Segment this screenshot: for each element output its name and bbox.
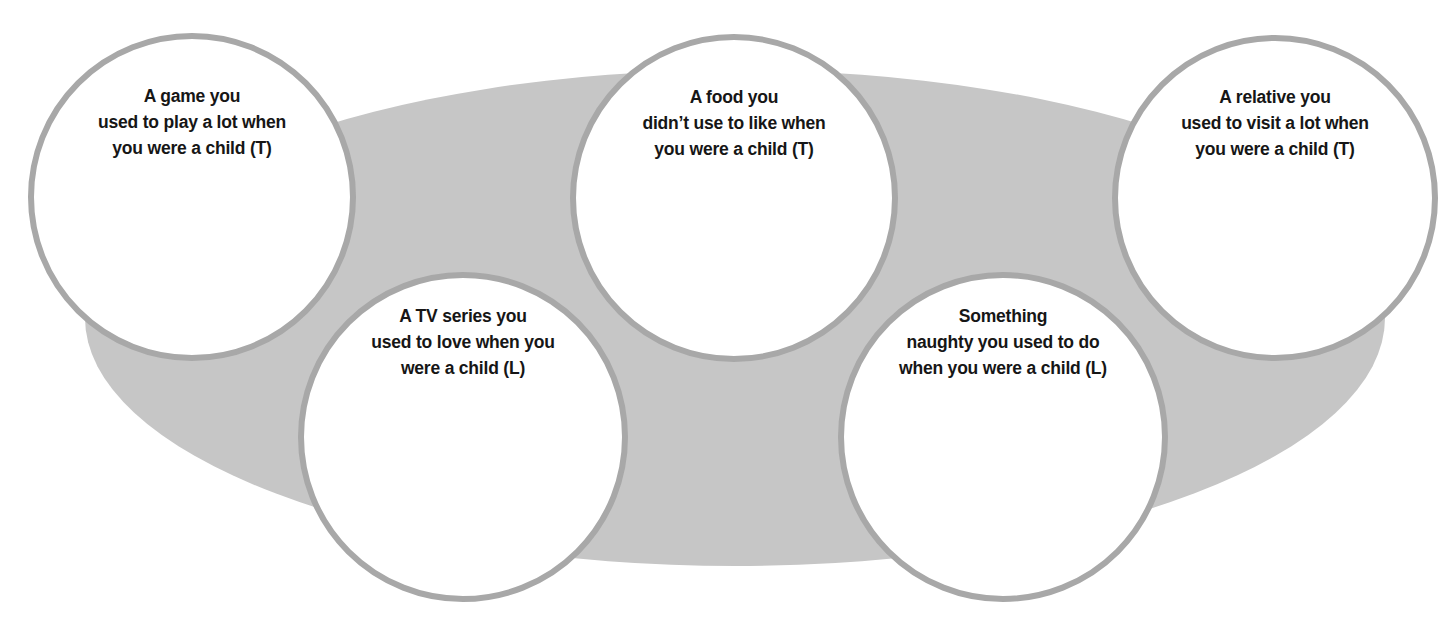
bubble-game-text: A game you used to play a lot when you w… bbox=[34, 83, 350, 161]
bubble-naughty: Something naughty you used to do when yo… bbox=[838, 272, 1168, 602]
bubble-tv-series-line-3: were a child (L) bbox=[304, 355, 622, 381]
bubble-game-line-2: used to play a lot when bbox=[34, 109, 350, 135]
bubble-tv-series: A TV series you used to love when you we… bbox=[298, 272, 628, 602]
bubble-game-line-1: A game you bbox=[34, 83, 350, 109]
bubble-game-line-3: you were a child (T) bbox=[34, 135, 350, 161]
bubble-relative-line-2: used to visit a lot when bbox=[1118, 110, 1432, 136]
bubble-food-line-2: didn’t use to like when bbox=[576, 110, 892, 136]
bubble-food-text: A food you didn’t use to like when you w… bbox=[576, 84, 892, 162]
bubble-relative-line-3: you were a child (T) bbox=[1118, 136, 1432, 162]
bubble-food-line-3: you were a child (T) bbox=[576, 136, 892, 162]
bubble-tv-series-line-2: used to love when you bbox=[304, 329, 622, 355]
bubble-relative-line-1: A relative you bbox=[1118, 84, 1432, 110]
bubble-naughty-line-1: Something bbox=[844, 303, 1162, 329]
bubble-tv-series-line-1: A TV series you bbox=[304, 303, 622, 329]
bubble-naughty-line-2: naughty you used to do bbox=[844, 329, 1162, 355]
bubble-tv-series-text: A TV series you used to love when you we… bbox=[304, 303, 622, 381]
bubble-food-line-1: A food you bbox=[576, 84, 892, 110]
bubble-naughty-text: Something naughty you used to do when yo… bbox=[844, 303, 1162, 381]
bubble-relative-text: A relative you used to visit a lot when … bbox=[1118, 84, 1432, 162]
bubble-naughty-line-3: when you were a child (L) bbox=[844, 355, 1162, 381]
